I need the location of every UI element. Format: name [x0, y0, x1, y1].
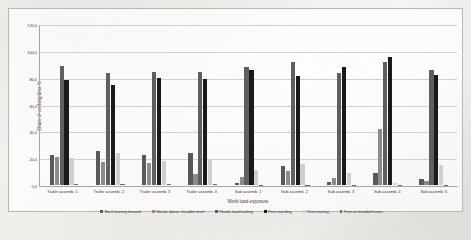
legend-item[interactable]: Feet standing	[264, 209, 292, 214]
bar	[152, 72, 156, 185]
bar	[157, 78, 161, 185]
plot-wrapper: Share of working time % 0,020,040,060,08…	[39, 25, 457, 187]
bar	[244, 67, 248, 185]
legend-swatch-icon	[152, 210, 155, 213]
x-axis-tick-label: Sub assemb. 5	[411, 189, 457, 194]
bar	[398, 185, 402, 186]
bar-group	[180, 25, 226, 185]
legend-item[interactable]: Back leaning forward	[100, 209, 141, 214]
legend-swatch-icon	[215, 210, 218, 213]
bar	[235, 183, 239, 185]
bar	[142, 155, 146, 185]
bar	[167, 184, 171, 185]
legend-item[interactable]: Hands load hauling	[215, 209, 253, 214]
bar	[419, 179, 423, 185]
bar	[106, 73, 110, 185]
bar-group	[411, 25, 457, 185]
bar	[96, 151, 100, 185]
x-axis-title: Work load exposure	[39, 199, 457, 204]
bar	[60, 66, 64, 185]
bar-group	[87, 25, 133, 185]
bar-group	[272, 25, 318, 185]
bar-groups	[41, 25, 457, 185]
y-axis-tick-label: 100,0	[27, 49, 37, 54]
bar	[347, 173, 351, 185]
bar	[342, 67, 346, 185]
bar	[305, 185, 309, 186]
bar	[69, 158, 73, 185]
bar	[444, 185, 448, 186]
bar	[120, 184, 124, 185]
bar	[291, 62, 295, 185]
legend-item[interactable]: Feet on bended knees	[340, 209, 383, 214]
bar	[434, 75, 438, 185]
x-axis-tick-label: Sub assemb. 2	[271, 189, 317, 194]
bar	[286, 171, 290, 185]
bar	[147, 163, 151, 185]
bar	[193, 174, 197, 185]
bar	[208, 160, 212, 185]
x-axis-tick-label: Sub assemb. 1	[225, 189, 271, 194]
legend-swatch-icon	[340, 210, 343, 213]
bar	[111, 85, 115, 185]
chart-container: Share of working time % 0,020,040,060,08…	[8, 8, 463, 212]
bar	[281, 166, 285, 185]
bar	[55, 157, 59, 185]
bar	[327, 182, 331, 185]
bar-group	[133, 25, 179, 185]
bar	[424, 181, 428, 185]
legend-swatch-icon	[100, 210, 103, 213]
y-axis-tick-label: 40,0	[29, 130, 37, 135]
bar	[296, 76, 300, 185]
bar-group	[41, 25, 87, 185]
bar	[388, 57, 392, 185]
bar	[249, 70, 253, 185]
legend-item[interactable]: Hands above shoulder level	[152, 209, 204, 214]
x-axis-tick-label: Trailer assemb. 1	[39, 189, 85, 194]
bar-group	[226, 25, 272, 185]
y-axis-tick-label: 20,0	[29, 157, 37, 162]
bar-group	[365, 25, 411, 185]
x-axis-tick-label: Trailer assemb. 4	[178, 189, 224, 194]
x-axis-tick-label: Sub assemb. 3	[318, 189, 364, 194]
legend-label: Feet moving	[307, 209, 328, 214]
bar	[393, 183, 397, 185]
legend-swatch-icon	[264, 210, 267, 213]
bar	[259, 185, 263, 186]
chart-legend: Back leaning forwardHands above shoulder…	[29, 209, 454, 214]
y-axis-tick-label: 60,0	[29, 103, 37, 108]
legend-label: Hands above shoulder level	[156, 209, 204, 214]
bar-group	[318, 25, 364, 185]
bar	[116, 153, 120, 185]
bar	[337, 73, 341, 185]
legend-item[interactable]: Feet moving	[303, 209, 329, 214]
x-axis-tick-label: Trailer assemb. 2	[85, 189, 131, 194]
bar	[378, 129, 382, 185]
y-axis-tick-label: 0,0	[32, 184, 37, 189]
legend-swatch-icon	[303, 210, 306, 213]
legend-label: Hands load hauling	[220, 209, 253, 214]
bar	[203, 79, 207, 185]
x-axis-tick-labels: Trailer assemb. 1Trailer assemb. 2Traile…	[39, 189, 457, 194]
bar	[332, 178, 336, 185]
bar	[101, 162, 105, 185]
bar	[240, 177, 244, 185]
bar	[373, 173, 377, 185]
bar	[198, 72, 202, 185]
bar	[352, 185, 356, 186]
legend-label: Back leaning forward	[105, 209, 141, 214]
legend-label: Feet on bended knees	[344, 209, 383, 214]
bar	[50, 155, 54, 185]
y-axis-tick-label: 80,0	[29, 76, 37, 81]
bar	[64, 80, 68, 185]
bar	[429, 70, 433, 185]
x-axis-tick-label: Sub assemb. 4	[364, 189, 410, 194]
legend-label: Feet standing	[268, 209, 292, 214]
bar	[383, 62, 387, 185]
y-axis-tick-label: 120,0	[27, 23, 37, 28]
bar	[439, 165, 443, 185]
plot-area: 0,020,040,060,080,0100,0120,0	[39, 25, 457, 187]
bar	[188, 153, 192, 185]
bar	[162, 161, 166, 185]
x-axis-tick-label: Trailer assemb. 3	[132, 189, 178, 194]
